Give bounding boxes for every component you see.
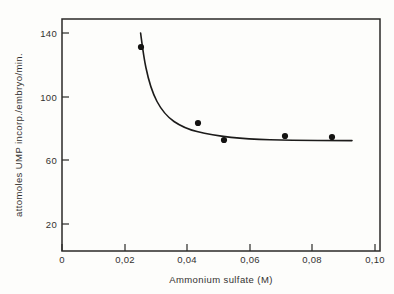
- x-tick-label-006: 0,06: [240, 254, 260, 265]
- fitted-decay-curve: [141, 33, 352, 141]
- x-tick-label-0: 0: [59, 254, 65, 265]
- y-tick-label-100: 100: [40, 92, 57, 103]
- x-tick-label-004: 0,04: [177, 254, 197, 265]
- plot-svg: 140 100 60 20 0 0,02 0,04 0,06 0,08 0,10…: [0, 0, 394, 294]
- x-tick-label-008: 0,08: [302, 254, 322, 265]
- data-point-4: [282, 133, 288, 139]
- x-tick-label-010: 0,10: [365, 254, 385, 265]
- y-tick-label-60: 60: [46, 155, 57, 166]
- y-tick-label-20: 20: [46, 219, 57, 230]
- y-axis-title: attomoles UMP incorp./embryo/min.: [13, 53, 24, 217]
- chart-figure: 140 100 60 20 0 0,02 0,04 0,06 0,08 0,10…: [0, 0, 394, 294]
- x-tick-labels: 0 0,02 0,04 0,06 0,08 0,10: [59, 254, 385, 265]
- data-point-5: [329, 134, 335, 140]
- x-axis-ticks: [62, 244, 375, 251]
- x-tick-label-002: 0,02: [115, 254, 135, 265]
- data-point-2: [195, 120, 201, 126]
- data-point-3: [221, 137, 227, 143]
- y-tick-label-140: 140: [40, 28, 57, 39]
- y-axis-ticks: [62, 33, 69, 224]
- data-series-curve: [141, 33, 352, 141]
- data-point-1: [138, 44, 144, 50]
- x-axis-title: Ammonium sulfate (M): [169, 274, 273, 285]
- y-tick-labels: 140 100 60 20: [40, 28, 57, 230]
- data-series-markers: [138, 44, 335, 143]
